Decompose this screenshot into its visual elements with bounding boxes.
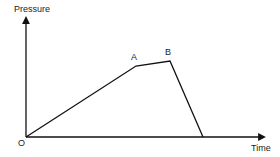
point-a-label: A <box>131 52 137 62</box>
origin-label: O <box>18 138 25 148</box>
y-axis-label: Pressure <box>14 4 50 14</box>
x-axis-label: Time <box>251 143 271 153</box>
pressure-time-diagram: Pressure Time O A B <box>0 0 280 157</box>
pressure-curve <box>26 61 203 137</box>
point-b-label: B <box>165 47 171 57</box>
